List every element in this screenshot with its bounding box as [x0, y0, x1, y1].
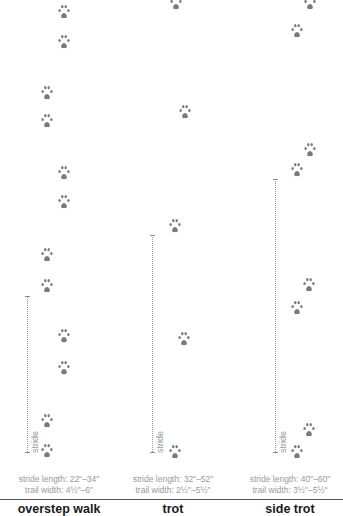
- paw-print-icon: [58, 361, 70, 376]
- paw-print-icon: [41, 114, 53, 129]
- paw-print-icon: [58, 35, 70, 50]
- trail-width-text: trail width: 3½"–5½": [233, 485, 343, 496]
- trot-meta: stride length: 32"–52" trail width: 2½"–…: [116, 474, 230, 496]
- stride-label: stride: [155, 431, 165, 453]
- paw-print-icon: [303, 423, 315, 438]
- paw-print-icon: [179, 105, 191, 120]
- gait-title-side-trot: side trot: [233, 502, 343, 516]
- paw-print-icon: [291, 445, 303, 460]
- stride-cap-top: [25, 296, 30, 297]
- paw-print-icon: [291, 163, 303, 178]
- stride-measure-line: [275, 179, 276, 452]
- paw-print-icon: [41, 86, 53, 101]
- paw-print-icon: [58, 5, 70, 20]
- paw-print-icon: [169, 219, 181, 234]
- paw-print-icon: [169, 445, 181, 460]
- paw-print-icon: [304, 143, 316, 158]
- divider: [0, 499, 343, 500]
- trail-width-text: trail width: 4½"–6": [2, 485, 116, 496]
- paw-print-icon: [41, 279, 53, 294]
- trail-width-text: trail width: 2½"–5½": [116, 485, 230, 496]
- stride-length-text: stride length: 32"–52": [116, 474, 230, 485]
- stride-length-text: stride length: 40"–60": [233, 474, 343, 485]
- paw-print-icon: [170, 0, 182, 11]
- stride-label: stride: [278, 431, 288, 453]
- stride-label: stride: [30, 431, 40, 453]
- paw-print-icon: [58, 166, 70, 181]
- paw-print-icon: [303, 278, 315, 293]
- paw-print-icon: [304, 0, 316, 11]
- stride-measure-line: [152, 235, 153, 452]
- overstep-walk-meta: stride length: 22"–34" trail width: 4½"–…: [2, 474, 116, 496]
- stride-cap-top: [150, 235, 155, 236]
- paw-print-icon: [41, 248, 53, 263]
- stride-length-text: stride length: 22"–34": [2, 474, 116, 485]
- paw-print-icon: [58, 195, 70, 210]
- stride-cap-top: [273, 179, 278, 180]
- paw-print-icon: [291, 301, 303, 316]
- paw-print-icon: [41, 444, 53, 459]
- gait-title-trot: trot: [116, 502, 230, 516]
- paw-print-icon: [178, 332, 190, 347]
- paw-print-icon: [291, 24, 303, 39]
- paw-print-icon: [58, 329, 70, 344]
- side-trot-meta: stride length: 40"–60" trail width: 3½"–…: [233, 474, 343, 496]
- paw-print-icon: [41, 414, 53, 429]
- gait-title-overstep-walk: overstep walk: [2, 502, 116, 516]
- stride-measure-line: [27, 296, 28, 452]
